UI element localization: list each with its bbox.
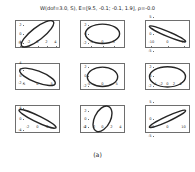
x-tick-mark <box>56 46 57 48</box>
x-tick-label: 4 <box>119 125 121 129</box>
x-tick-mark <box>168 46 169 48</box>
y-tick-label: 0 <box>19 117 22 121</box>
y-tick-mark <box>23 43 25 44</box>
x-tick-mark <box>103 132 104 134</box>
x-tick-mark <box>94 132 95 134</box>
y-tick-label: 4 <box>19 61 22 65</box>
x-tick-label: 2 <box>110 125 112 129</box>
y-tick-label: 0 <box>84 32 87 36</box>
y-tick-label: 0 <box>149 32 152 36</box>
x-tick-label: -2 <box>159 82 163 86</box>
y-tick-mark <box>88 43 90 44</box>
x-tick-label: 2 <box>45 40 47 44</box>
x-tick-label: 0 <box>36 125 38 129</box>
x-tick-label: 2 <box>46 125 48 129</box>
y-tick-label: 0 <box>84 117 87 121</box>
subplot-grid: -4-2024-202-505-202-10010-505-505-2024-5… <box>0 17 195 145</box>
y-tick-label: 2 <box>84 65 87 69</box>
y-tick-mark <box>153 119 155 120</box>
y-tick-label: -4 <box>18 128 23 132</box>
y-axis-ticks: -404 <box>14 105 23 133</box>
x-tick-label: 5 <box>50 82 52 86</box>
subplot-cell: -10010-505 <box>130 102 195 145</box>
x-tick-label: 0 <box>101 40 103 44</box>
y-tick-label: -5 <box>148 49 153 53</box>
y-tick-label: -2 <box>83 125 88 129</box>
subplot-7: -4-2024-202 <box>80 105 125 133</box>
y-tick-mark <box>23 63 25 64</box>
y-tick-label: -2 <box>148 84 153 88</box>
x-tick-label: -5 <box>89 40 93 44</box>
x-tick-label: 0 <box>36 82 38 86</box>
y-tick-mark <box>153 136 155 137</box>
x-tick-mark <box>38 89 39 91</box>
x-tick-label: 0 <box>166 40 168 44</box>
y-tick-mark <box>23 70 25 71</box>
x-tick-mark <box>184 132 185 134</box>
y-axis-ticks: -505 <box>144 105 153 133</box>
x-tick-mark <box>121 132 122 134</box>
y-axis-ticks: -202 <box>79 63 88 91</box>
x-tick-mark <box>29 46 30 48</box>
y-tick-mark <box>88 76 90 77</box>
subplot-3: -505-2024 <box>15 63 60 91</box>
subplot-cell: -202-404 <box>0 102 65 145</box>
x-tick-label: 5 <box>113 40 115 44</box>
x-tick-label: 10 <box>181 125 186 129</box>
wishart-ellipse-figure: W(dof=3.0, S), E=[9.5, -0.1; -0.1, 1.9],… <box>0 0 195 172</box>
y-tick-mark <box>88 25 90 26</box>
y-tick-mark <box>153 51 155 52</box>
y-tick-mark <box>23 130 25 131</box>
x-tick-label: 4 <box>54 40 56 44</box>
y-axis-ticks: -505 <box>144 20 153 48</box>
x-tick-label: -2 <box>92 125 96 129</box>
x-tick-label: 0 <box>166 82 168 86</box>
y-axis-ticks: -202 <box>144 63 153 91</box>
x-tick-mark <box>114 46 115 48</box>
x-tick-mark <box>180 89 181 91</box>
subplot-cell: -4-2024-202 <box>65 102 130 145</box>
x-tick-label: -2 <box>26 125 30 129</box>
y-tick-mark <box>88 86 90 87</box>
subplot-5: -4-2024-202 <box>145 63 190 91</box>
x-tick-mark <box>168 132 169 134</box>
x-tick-mark <box>103 89 104 91</box>
x-tick-mark <box>91 46 92 48</box>
x-tick-label: 0 <box>101 125 103 129</box>
x-tick-mark <box>28 132 29 134</box>
y-tick-mark <box>23 119 25 120</box>
y-tick-mark <box>23 83 25 84</box>
y-tick-label: 4 <box>19 106 22 110</box>
x-tick-label: 4 <box>179 82 181 86</box>
x-tick-mark <box>168 89 169 91</box>
y-tick-mark <box>153 76 155 77</box>
x-tick-mark <box>103 46 104 48</box>
y-tick-mark <box>23 76 25 77</box>
y-tick-label: 2 <box>19 68 22 72</box>
y-tick-mark <box>88 34 90 35</box>
y-tick-mark <box>153 86 155 87</box>
x-tick-mark <box>38 132 39 134</box>
x-tick-label: 2 <box>173 82 175 86</box>
y-tick-label: 2 <box>149 65 152 69</box>
x-tick-mark <box>155 89 156 91</box>
y-tick-mark <box>23 34 25 35</box>
y-tick-mark <box>153 67 155 68</box>
y-tick-label: -2 <box>83 84 88 88</box>
y-tick-label: 5 <box>149 15 152 19</box>
x-tick-mark <box>117 89 118 91</box>
y-tick-mark <box>23 108 25 109</box>
x-tick-label: 5 <box>115 82 117 86</box>
y-tick-mark <box>88 127 90 128</box>
y-tick-label: 0 <box>84 74 87 78</box>
y-tick-mark <box>88 111 90 112</box>
subplot-0: -4-2024-202 <box>15 20 60 48</box>
y-axis-ticks: -202 <box>14 20 23 48</box>
subplot-cell: -10010-505 <box>130 17 195 60</box>
x-tick-mark <box>48 132 49 134</box>
subplot-cell: -505-2024 <box>0 60 65 103</box>
x-tick-mark <box>174 89 175 91</box>
y-tick-label: 0 <box>149 74 152 78</box>
y-axis-ticks: -202 <box>79 105 88 133</box>
y-tick-label: -2 <box>83 41 88 45</box>
